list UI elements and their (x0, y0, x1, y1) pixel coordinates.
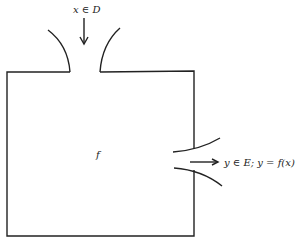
function-diagram: x ∈ D f y ∈ E; y = f(x) (0, 0, 295, 242)
box-outline-top-right (100, 71, 194, 149)
output-funnel-upper (173, 138, 220, 152)
input-funnel-right (100, 28, 120, 72)
input-label: x ∈ D (73, 4, 100, 15)
box-outline (7, 72, 194, 236)
output-label: y ∈ E; y = f(x) (223, 157, 295, 168)
input-funnel-left (48, 30, 70, 72)
function-label: f (95, 149, 102, 160)
output-funnel-lower (174, 168, 222, 186)
